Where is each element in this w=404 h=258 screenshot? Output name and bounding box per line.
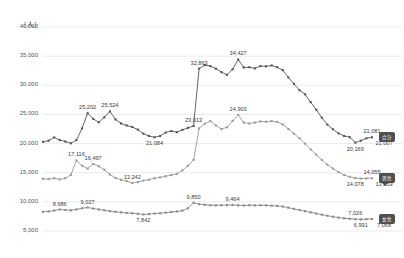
marker-series-bottom: [293, 208, 295, 210]
marker-series-top: [237, 58, 239, 60]
marker-series-middle: [187, 165, 189, 167]
marker-series-middle: [315, 154, 317, 156]
marker-series-bottom: [371, 218, 373, 220]
line-chart: 〔人〕 40,00035,00030,00025,00020,00015,000…: [0, 0, 404, 258]
data-label: 14,078: [347, 181, 364, 187]
marker-series-middle: [42, 178, 44, 180]
marker-series-top: [298, 89, 300, 91]
marker-series-top: [209, 65, 211, 67]
marker-series-middle: [176, 173, 178, 175]
marker-series-bottom: [142, 213, 144, 215]
data-label: 9,850: [187, 194, 201, 200]
marker-series-middle: [304, 143, 306, 145]
marker-series-middle: [81, 165, 83, 167]
marker-series-top: [159, 135, 161, 137]
marker-series-bottom: [254, 204, 256, 206]
marker-series-middle: [64, 177, 66, 179]
marker-series-middle: [165, 175, 167, 177]
marker-series-top: [103, 116, 105, 118]
marker-series-middle: [137, 181, 139, 183]
data-label: 14,055: [363, 169, 380, 175]
marker-series-top: [142, 133, 144, 135]
marker-series-middle: [53, 177, 55, 179]
data-label: 7,842: [136, 217, 150, 223]
marker-series-middle: [343, 174, 345, 176]
marker-series-top: [276, 66, 278, 68]
marker-series-top: [92, 118, 94, 120]
marker-series-bottom: [159, 212, 161, 214]
marker-series-top: [165, 131, 167, 133]
data-label: 7,026: [348, 210, 362, 216]
marker-series-bottom: [70, 209, 72, 211]
marker-series-middle: [181, 169, 183, 171]
marker-series-bottom: [337, 217, 339, 219]
marker-series-bottom: [315, 212, 317, 214]
marker-series-bottom: [198, 203, 200, 205]
marker-series-middle: [70, 174, 72, 176]
marker-series-middle: [109, 173, 111, 175]
marker-series-top: [153, 136, 155, 138]
marker-series-middle: [349, 176, 351, 178]
marker-series-bottom: [226, 204, 228, 206]
marker-series-top: [87, 112, 89, 114]
marker-series-top: [326, 124, 328, 126]
marker-series-middle: [159, 176, 161, 178]
marker-series-bottom: [126, 212, 128, 214]
marker-series-middle: [226, 126, 228, 128]
marker-series-bottom: [120, 211, 122, 213]
marker-series-top: [120, 122, 122, 124]
marker-series-bottom: [153, 212, 155, 214]
data-label: 6,991: [354, 222, 368, 228]
marker-series-top: [98, 121, 100, 123]
marker-series-middle: [103, 169, 105, 171]
marker-series-bottom: [193, 202, 195, 204]
marker-series-bottom: [243, 204, 245, 206]
marker-series-bottom: [332, 216, 334, 218]
data-label: 34,427: [230, 50, 247, 56]
marker-series-middle: [114, 177, 116, 179]
marker-series-top: [170, 130, 172, 132]
marker-series-middle: [371, 177, 373, 179]
marker-series-top: [75, 139, 77, 141]
marker-series-top: [243, 66, 245, 68]
marker-series-middle: [237, 114, 239, 116]
marker-series-bottom: [48, 210, 50, 212]
data-label: 13,242: [124, 174, 141, 180]
marker-series-bottom: [187, 207, 189, 209]
marker-series-top: [215, 68, 217, 70]
marker-series-middle: [293, 133, 295, 135]
marker-series-top: [137, 129, 139, 131]
marker-series-middle: [287, 128, 289, 130]
marker-series-middle: [209, 120, 211, 122]
data-label: 21,084: [146, 140, 163, 146]
y-axis-tick-5000: 5,000: [4, 227, 38, 233]
marker-series-bottom: [165, 212, 167, 214]
marker-series-middle: [126, 180, 128, 182]
marker-series-bottom: [310, 211, 312, 213]
marker-series-bottom: [42, 211, 44, 213]
marker-series-middle: [48, 178, 50, 180]
data-label: 25,202: [79, 104, 96, 110]
data-label: 8,686: [53, 201, 67, 207]
marker-series-bottom: [360, 218, 362, 220]
marker-series-middle: [193, 159, 195, 161]
marker-series-top: [198, 68, 200, 70]
marker-series-top: [360, 140, 362, 142]
series-badge-series-bottom: 女性: [379, 214, 395, 224]
marker-series-top: [48, 140, 50, 142]
marker-series-middle: [131, 182, 133, 184]
marker-series-top: [126, 124, 128, 126]
marker-series-middle: [276, 121, 278, 123]
y-axis-tick-40000: 40,000: [4, 23, 38, 29]
marker-series-bottom: [148, 213, 150, 215]
marker-series-bottom: [232, 204, 234, 206]
marker-series-top: [343, 135, 345, 137]
marker-series-top: [131, 126, 133, 128]
marker-series-middle: [337, 171, 339, 173]
marker-series-bottom: [87, 206, 89, 208]
marker-series-top: [265, 65, 267, 67]
marker-series-bottom: [92, 208, 94, 210]
y-axis-tick-25000: 25,000: [4, 110, 38, 116]
marker-series-top: [371, 136, 373, 138]
series-badge-series-top: 合計: [379, 132, 395, 142]
